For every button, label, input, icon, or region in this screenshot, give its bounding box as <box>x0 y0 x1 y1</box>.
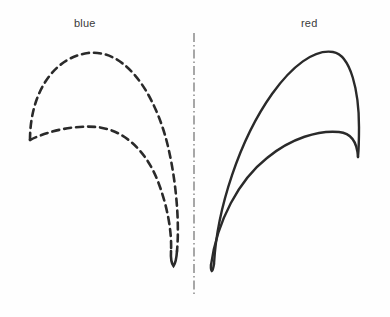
figure-canvas: blue red <box>0 0 390 317</box>
red-profile-label: red <box>301 18 318 29</box>
canvas-background <box>0 0 390 317</box>
blade-profile-diagram <box>0 0 390 317</box>
blue-profile-label: blue <box>74 18 96 29</box>
